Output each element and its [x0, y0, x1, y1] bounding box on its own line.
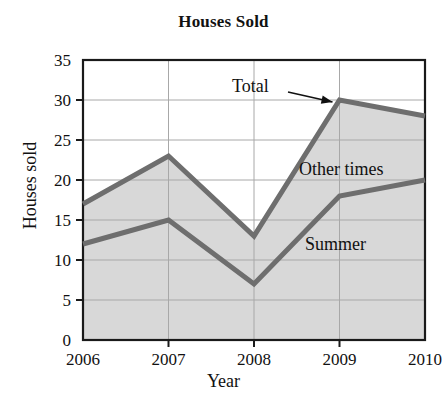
y-tick-label: 20 — [54, 171, 71, 190]
y-tick-label: 0 — [63, 331, 72, 350]
x-tick-label: 2008 — [237, 350, 271, 369]
y-tick-label: 15 — [54, 211, 71, 230]
y-tick-label: 5 — [63, 291, 72, 310]
annotation-summer-label: Summer — [305, 234, 366, 254]
y-tick-label: 30 — [54, 91, 71, 110]
annotation-total-label: Total — [232, 76, 269, 96]
y-tick-label: 25 — [54, 131, 71, 150]
x-tick-label: 2006 — [66, 350, 100, 369]
y-tick-label: 35 — [54, 51, 71, 70]
x-tick-label: 2007 — [152, 350, 187, 369]
y-tick-label: 10 — [54, 251, 71, 270]
chart-container: Houses Sold Houses sold Year 05101520253… — [0, 0, 447, 406]
y-tick-labels: 05101520253035 — [54, 51, 71, 350]
chart-plot: 05101520253035 20062007200820092010 Tota… — [0, 0, 447, 406]
x-tick-label: 2009 — [323, 350, 357, 369]
annotation-other-times-label: Other times — [299, 159, 383, 179]
x-tick-labels: 20062007200820092010 — [66, 350, 442, 369]
x-tick-label: 2010 — [408, 350, 442, 369]
